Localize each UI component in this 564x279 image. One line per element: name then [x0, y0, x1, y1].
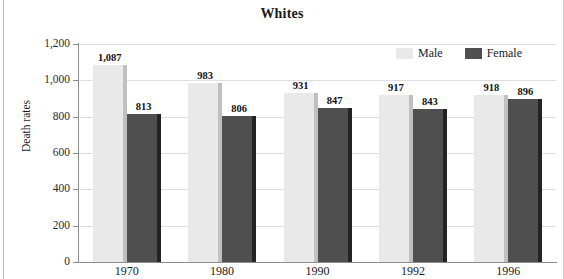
plot-area: 1,087813983806931847917843918896	[79, 44, 556, 262]
bar-value-label: 896	[500, 86, 550, 97]
bar-face	[474, 95, 504, 262]
bar-value-label: 843	[405, 96, 455, 107]
bar-side-shade	[348, 108, 352, 262]
bar-face	[413, 109, 443, 262]
bar-value-label: 806	[214, 103, 264, 114]
y-tick-mark	[73, 226, 78, 227]
bar-female-1992[interactable]	[413, 109, 447, 262]
bar-value-label: 983	[180, 70, 230, 81]
bar-female-1980[interactable]	[222, 116, 256, 262]
x-tick-label: 1970	[79, 264, 174, 279]
bar-side-shade	[252, 116, 256, 262]
bar-face	[284, 93, 314, 262]
bar-female-1996[interactable]	[508, 99, 542, 262]
y-tick-mark	[73, 153, 78, 154]
y-tick-mark	[73, 262, 78, 263]
bar-male-1996[interactable]	[474, 95, 508, 262]
page-rule-left	[3, 0, 4, 279]
y-tick-label: 1,200	[22, 37, 70, 49]
chart-title: Whites	[0, 6, 564, 22]
x-tick-label: 1996	[461, 264, 556, 279]
gridline	[79, 44, 556, 45]
bar-female-1970[interactable]	[127, 114, 161, 262]
bar-face	[318, 108, 348, 262]
bar-value-label: 917	[371, 82, 421, 93]
bar-face	[379, 95, 409, 262]
y-tick-mark	[73, 44, 78, 45]
bar-value-label: 1,087	[85, 52, 135, 63]
bar-side-shade	[443, 109, 447, 262]
bar-value-label: 847	[310, 95, 360, 106]
y-tick-label: 200	[22, 219, 70, 231]
bar-male-1990[interactable]	[284, 93, 318, 262]
x-axis-line	[78, 262, 557, 263]
bar-female-1990[interactable]	[318, 108, 352, 262]
bar-side-shade	[538, 99, 542, 262]
y-tick-label: 0	[22, 255, 70, 267]
y-tick-mark	[73, 117, 78, 118]
bar-value-label: 813	[119, 101, 169, 112]
bar-value-label: 931	[276, 80, 326, 91]
bar-face	[508, 99, 538, 262]
y-axis-title: Death rates	[20, 66, 32, 186]
bar-face	[93, 65, 123, 262]
y-tick-mark	[73, 189, 78, 190]
bar-male-1992[interactable]	[379, 95, 413, 262]
bar-face	[222, 116, 252, 262]
bar-side-shade	[157, 114, 161, 262]
y-tick-mark	[73, 80, 78, 81]
bar-male-1970[interactable]	[93, 65, 127, 262]
bar-face	[127, 114, 157, 262]
x-tick-label: 1980	[174, 264, 269, 279]
x-tick-label: 1992	[365, 264, 460, 279]
chart-figure: Whites Male Female 02004006008001,0001,2…	[0, 0, 564, 279]
x-tick-label: 1990	[270, 264, 365, 279]
